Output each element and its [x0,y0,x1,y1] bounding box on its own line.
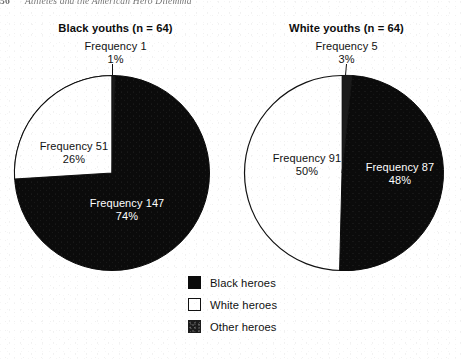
slice-percent: 48% [389,174,411,186]
legend-label-black-heroes: Black heroes [210,277,276,289]
slice-value: Frequency 87 [366,161,434,173]
slice-percent: 50% [296,165,318,177]
chart-panel-black-youths: Black youths (n = 64) Frequency 1 1% [0,0,231,285]
legend-item-other-heroes: Other heroes [188,320,277,333]
legend-item-black-heroes: Black heroes [188,276,277,289]
chart-legend: Black heroes White heroes Other heroes [188,276,277,333]
slice-value: Frequency 147 [90,197,165,209]
legend-swatch-other-icon [188,320,201,333]
pie-black-youths: Frequency 51 26% Frequency 147 74% [0,0,231,285]
slice-percent: 26% [63,153,85,165]
book-page: 56Athletes and the American Hero Dilemma… [0,0,462,360]
chart-panel-white-youths: White youths (n = 64) Frequency 5 3% [231,0,462,285]
legend-item-white-heroes: White heroes [188,298,277,311]
legend-label-other-heroes: Other heroes [210,321,277,333]
slice-percent: 74% [116,210,138,222]
slice-label-black-white-youths: Frequency 87 48% [344,161,456,186]
legend-label-white-heroes: White heroes [210,299,277,311]
legend-swatch-black-icon [188,276,201,289]
pie-white-youths: Frequency 91 50% Frequency 87 48% [231,0,462,285]
slice-value: Frequency 91 [273,152,341,164]
slice-value: Frequency 51 [40,140,108,152]
slice-label-white-black-youths: Frequency 51 26% [14,140,134,165]
slice-label-black-black-youths: Frequency 147 74% [62,197,192,222]
legend-swatch-white-icon [188,298,201,311]
